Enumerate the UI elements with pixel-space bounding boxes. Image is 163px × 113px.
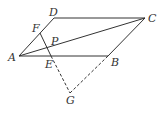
segment-FE [40,33,51,56]
label-A: A [7,51,16,64]
dashed-segment-GB [70,56,108,93]
geometry-diagram: D C F P A E B G [0,0,163,113]
label-F: F [31,22,40,35]
label-B: B [110,56,119,69]
label-C: C [148,12,157,25]
label-E: E [44,58,53,71]
label-D: D [48,6,58,19]
dashed-segment-EG [51,56,70,93]
label-P: P [50,35,59,48]
label-G: G [66,94,75,107]
